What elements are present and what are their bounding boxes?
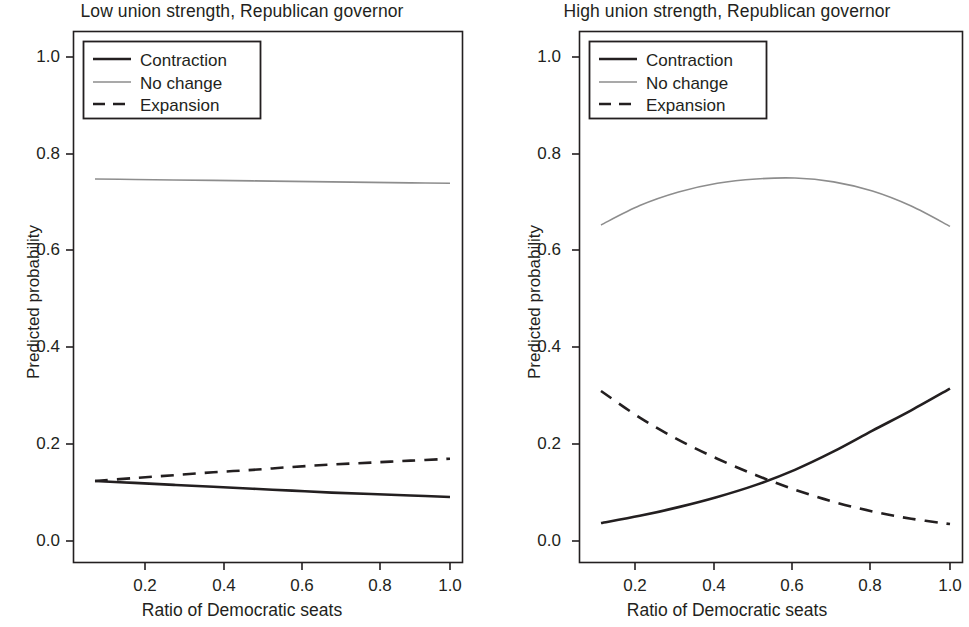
x-ticks-right	[635, 563, 950, 570]
legend-label-no-change-left: No change	[140, 74, 222, 93]
legend-label-expansion-left: Expansion	[140, 96, 219, 115]
legend-label-expansion-right: Expansion	[646, 96, 725, 115]
series-lines-right	[601, 178, 950, 524]
series-line-contraction	[95, 481, 450, 497]
series-line-no-change	[601, 178, 950, 227]
series-line-no-change	[95, 179, 450, 183]
legend-right: Contraction No change Expansion	[590, 42, 767, 119]
series-line-expansion	[95, 459, 450, 481]
x-ticks-left	[145, 563, 450, 570]
legend-left: Contraction No change Expansion	[84, 42, 261, 119]
plot-area-left: Contraction No change Expansion	[0, 0, 484, 627]
y-ticks-right	[572, 57, 579, 541]
series-line-expansion	[601, 391, 950, 524]
figure-two-panel-line-charts: Low union strength, Republican governor …	[0, 0, 969, 627]
series-line-contraction	[601, 389, 950, 524]
legend-label-contraction-right: Contraction	[646, 51, 733, 70]
legend-label-contraction-left: Contraction	[140, 51, 227, 70]
legend-label-no-change-right: No change	[646, 74, 728, 93]
panel-low-union-strength: Low union strength, Republican governor …	[0, 0, 484, 627]
panel-high-union-strength: High union strength, Republican governor…	[485, 0, 969, 627]
series-lines-left	[95, 179, 450, 497]
plot-area-right: Contraction No change Expansion	[485, 0, 969, 627]
y-ticks-left	[66, 57, 73, 541]
